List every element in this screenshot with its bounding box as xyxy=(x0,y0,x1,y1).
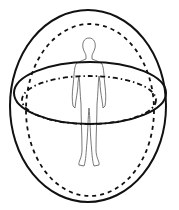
inner-sphere xyxy=(26,24,154,196)
outer-sphere xyxy=(10,10,166,202)
sphere-diagram xyxy=(0,0,179,210)
equator-ring-outer xyxy=(14,62,166,124)
diagram-svg xyxy=(0,0,179,210)
human-figure xyxy=(72,38,106,166)
